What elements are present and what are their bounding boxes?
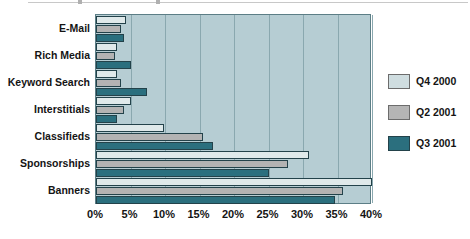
bar <box>96 97 131 105</box>
x-tick-label: 0% <box>87 208 103 220</box>
gridline <box>372 15 373 203</box>
bar <box>96 88 147 96</box>
bar <box>96 115 117 123</box>
bar-group <box>96 70 370 96</box>
category-label: Rich Media <box>35 50 90 61</box>
bar <box>96 169 269 177</box>
x-tick-label: 40% <box>360 208 382 220</box>
legend-label: Q4 2000 <box>416 75 456 87</box>
category-axis-labels: E-MailRich MediaKeyword SearchInterstiti… <box>0 14 90 204</box>
x-tick-label: 5% <box>122 208 138 220</box>
bar <box>96 79 121 87</box>
x-tick-label: 10% <box>153 208 175 220</box>
bar <box>96 151 309 159</box>
category-label: Keyword Search <box>8 77 90 88</box>
legend-item[interactable]: Q4 2000 <box>388 70 468 92</box>
category-label: Interstitials <box>34 104 90 115</box>
chart-legend: Q4 2000Q2 2001Q3 2001 <box>388 70 468 163</box>
legend-item[interactable]: Q2 2001 <box>388 101 468 123</box>
bar <box>96 124 164 132</box>
bar <box>96 34 124 42</box>
bar-group <box>96 151 370 177</box>
legend-label: Q2 2001 <box>416 106 456 118</box>
bar <box>96 70 117 78</box>
category-label: Sponsorships <box>20 158 90 169</box>
legend-swatch <box>388 74 410 89</box>
bar-group <box>96 178 370 204</box>
bar <box>96 25 121 33</box>
bar-group <box>96 43 370 69</box>
plot-area <box>95 14 371 204</box>
bar <box>96 43 117 51</box>
bar <box>96 61 131 69</box>
bar <box>96 16 126 24</box>
bar-group <box>96 97 370 123</box>
legend-swatch <box>388 136 410 151</box>
bar <box>96 133 203 141</box>
bar <box>96 178 372 186</box>
bar <box>96 52 115 60</box>
legend-label: Q3 2001 <box>416 137 456 149</box>
grouped-bar-chart: E-MailRich MediaKeyword SearchInterstiti… <box>0 0 470 239</box>
bar <box>96 160 288 168</box>
legend-item[interactable]: Q3 2001 <box>388 132 468 154</box>
x-tick-label: 20% <box>222 208 244 220</box>
bar-group <box>96 16 370 42</box>
x-tick-label: 35% <box>325 208 347 220</box>
legend-swatch <box>388 105 410 120</box>
bar <box>96 196 335 204</box>
bar <box>96 106 124 114</box>
bar <box>96 187 343 195</box>
category-label: Classifieds <box>35 131 90 142</box>
value-axis-labels: 0%5%10%15%20%25%30%35%40% <box>0 208 470 226</box>
category-label: Banners <box>48 185 90 196</box>
x-tick-label: 30% <box>291 208 313 220</box>
x-tick-label: 25% <box>256 208 278 220</box>
category-label: E-Mail <box>59 23 90 34</box>
x-tick-label: 15% <box>187 208 209 220</box>
bar-group <box>96 124 370 150</box>
bar <box>96 142 213 150</box>
